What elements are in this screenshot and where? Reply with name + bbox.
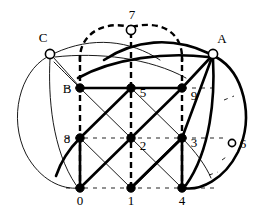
node-label-C: C: [39, 30, 48, 45]
node-label-4: 4: [179, 193, 186, 208]
node-label-7: 7: [129, 7, 136, 22]
grid-fragment-right-upper: [224, 96, 234, 100]
graph-node-0[interactable]: [76, 184, 84, 192]
node-label-2: 2: [140, 138, 147, 153]
graph-node-A[interactable]: [208, 49, 217, 58]
node-label-B: B: [63, 81, 72, 96]
graph-node-C[interactable]: [45, 49, 54, 58]
graph-node-8[interactable]: [76, 134, 84, 142]
lattice-graph-figure: 014823B59CA76: [0, 0, 265, 219]
node-label-0: 0: [77, 193, 84, 208]
graph-node-B[interactable]: [76, 84, 84, 92]
graph-nodes-layer: [45, 25, 235, 192]
node-label-A: A: [217, 31, 227, 46]
graph-node-1[interactable]: [127, 184, 135, 192]
graph-node-9[interactable]: [178, 84, 186, 92]
graph-node-2[interactable]: [127, 134, 135, 142]
graph-node-7[interactable]: [126, 25, 135, 34]
node-label-5: 5: [140, 85, 147, 100]
node-label-9: 9: [191, 88, 198, 103]
thick-arc-A-to-B-top: [78, 55, 208, 78]
graph-node-4[interactable]: [178, 184, 186, 192]
grid-fragment-right-lower: [209, 172, 218, 175]
thin-outer-lobe-C-to-0: [17, 57, 79, 188]
node-label-1: 1: [128, 193, 135, 208]
graph-node-5[interactable]: [127, 84, 135, 92]
diagram-canvas: 014823B59CA76: [0, 0, 265, 219]
graph-node-6[interactable]: [228, 139, 235, 146]
graph-node-3[interactable]: [178, 134, 186, 142]
thin-arc-C-to-9-top: [55, 55, 186, 78]
node-label-8: 8: [64, 131, 71, 146]
grid-fragment-right-mid: [222, 155, 229, 160]
node-label-3: 3: [191, 135, 198, 150]
node-label-6: 6: [240, 136, 247, 151]
